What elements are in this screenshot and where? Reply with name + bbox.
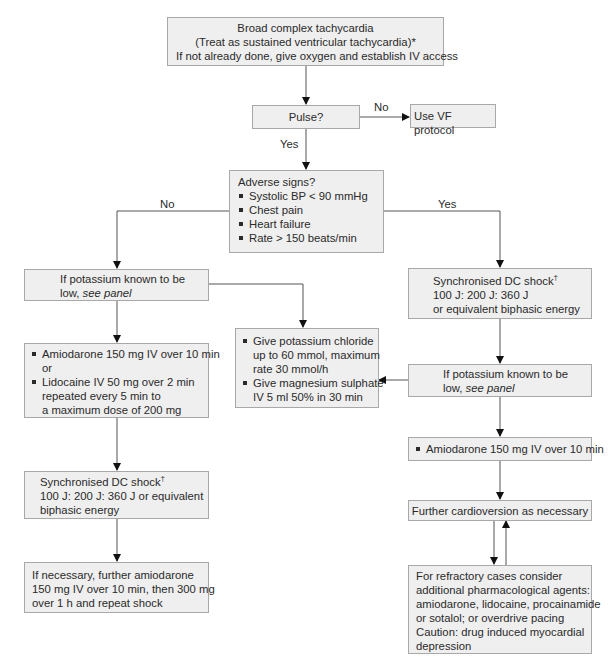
or-label: or bbox=[31, 361, 208, 375]
adverse-signs-heading: Adverse signs? bbox=[238, 175, 375, 189]
right-dc-shock-energy: 100 J: 200 J: 360 J bbox=[433, 288, 591, 302]
tachycardia-flowchart: Broad complex tachycardia (Treat as sust… bbox=[0, 0, 615, 660]
pulse-label: Pulse? bbox=[289, 111, 324, 123]
vf-protocol-label: Use VF protocol bbox=[414, 110, 454, 136]
right-amiodarone-box: Amiodarone 150 mg IV over 10 min bbox=[408, 437, 592, 461]
start-title: Broad complex tachycardia bbox=[176, 21, 435, 35]
caution-note: Caution: drug induced myocardial bbox=[416, 625, 591, 639]
adverse-sign-item: Systolic BP < 90 mmHg bbox=[238, 189, 375, 203]
adverse-yes-label: Yes bbox=[438, 197, 456, 211]
left-further-amiodarone-box: If necessary, further amiodarone 150 mg … bbox=[24, 562, 209, 613]
refractory-cases-box: For refractory cases consider additional… bbox=[408, 565, 592, 654]
right-potassium-line2: low, see panel bbox=[443, 381, 591, 395]
pulse-decision-box: Pulse? bbox=[252, 105, 360, 129]
right-potassium-box: If potassium known to be low, see panel bbox=[408, 364, 592, 397]
amiodarone-item: Amiodarone 150 mg IV over 10 min bbox=[31, 347, 208, 361]
see-panel-link: see panel bbox=[83, 287, 132, 299]
magnesium-sulphate-item: Give magnesium sulphate IV 5 ml 50% in 3… bbox=[242, 376, 378, 404]
adverse-sign-item: Rate > 150 beats/min bbox=[238, 231, 375, 245]
further-cardioversion-box: Further cardioversion as necessary bbox=[408, 500, 592, 521]
start-note: (Treat as sustained ventricular tachycar… bbox=[176, 35, 435, 49]
right-dc-shock-title: Synchronised DC shock† bbox=[433, 274, 591, 288]
vf-protocol-box: Use VF protocol bbox=[410, 104, 496, 128]
right-dc-shock-energy-cont: or equivalent biphasic energy bbox=[433, 302, 591, 316]
right-dc-shock-box: Synchronised DC shock† 100 J: 200 J: 360… bbox=[408, 268, 592, 319]
lidocaine-item: Lidocaine IV 50 mg over 2 min repeated e… bbox=[31, 375, 208, 417]
left-drugs-box: Amiodarone 150 mg IV over 10 min or Lido… bbox=[24, 343, 209, 418]
pulse-no-label: No bbox=[374, 100, 388, 114]
adverse-signs-box: Adverse signs? Systolic BP < 90 mmHg Che… bbox=[229, 170, 384, 253]
left-dc-shock-energy-cont: biphasic energy bbox=[40, 503, 208, 517]
adverse-sign-item: Heart failure bbox=[238, 217, 375, 231]
dagger-footnote: † bbox=[161, 474, 165, 483]
left-potassium-line2: low, see panel bbox=[60, 286, 208, 300]
adverse-signs-list: Systolic BP < 90 mmHg Chest pain Heart f… bbox=[238, 189, 375, 245]
amiodarone-item: Amiodarone 150 mg IV over 10 min bbox=[415, 442, 591, 456]
adverse-no-label: No bbox=[160, 197, 174, 211]
right-potassium-line1: If potassium known to be bbox=[443, 367, 591, 381]
pulse-yes-label: Yes bbox=[280, 137, 298, 151]
left-dc-shock-energy: 100 J: 200 J: 360 J or equivalent bbox=[40, 489, 208, 503]
left-potassium-line1: If potassium known to be bbox=[60, 272, 208, 286]
dagger-footnote: † bbox=[554, 273, 558, 282]
potassium-chloride-item: Give potassium chloride up to 60 mmol, m… bbox=[242, 334, 378, 376]
start-box: Broad complex tachycardia (Treat as sust… bbox=[167, 17, 444, 66]
further-cardioversion-label: Further cardioversion as necessary bbox=[412, 505, 588, 517]
left-dc-shock-box: Synchronised DC shock† 100 J: 200 J: 360… bbox=[24, 471, 209, 519]
see-panel-link: see panel bbox=[466, 382, 515, 394]
adverse-sign-item: Chest pain bbox=[238, 203, 375, 217]
potassium-panel-box: Give potassium chloride up to 60 mmol, m… bbox=[235, 328, 379, 408]
left-potassium-box: If potassium known to be low, see panel bbox=[24, 269, 209, 301]
left-dc-shock-title: Synchronised DC shock† bbox=[40, 475, 208, 489]
start-instruction: If not already done, give oxygen and est… bbox=[176, 49, 435, 63]
